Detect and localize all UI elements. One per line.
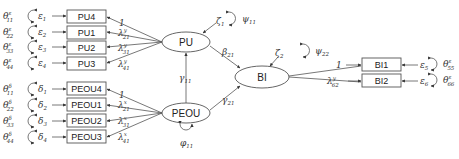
error-variance-arc	[28, 131, 34, 143]
disturbance-arrow	[203, 23, 216, 33]
variance-label: φ11	[180, 138, 193, 149]
indicator-label: PU3	[78, 59, 96, 69]
pu-indicator-row: θε44 ε4 PU3 λy41	[3, 57, 130, 71]
theta-label: θε22	[3, 26, 14, 39]
disturbance-label: ζ2	[275, 48, 284, 59]
path-label-beta21: β21	[221, 47, 234, 58]
error-variance-arc	[431, 74, 437, 86]
peou-indicator-row: θδ44 δ4 PEOU3 λx41	[3, 130, 130, 144]
theta-label: θε33	[3, 41, 14, 54]
theta-label: θε44	[3, 57, 14, 70]
variance-arc	[180, 124, 192, 130]
error-variance-arc	[28, 10, 34, 22]
indicator-label: BI1	[375, 60, 389, 70]
loading-label: λy31	[117, 42, 130, 55]
bi-indicator-group: 1 BI1 ε5 θε55 λy62 BI2 ε6 θε66	[289, 58, 455, 88]
error-variance-arc	[28, 115, 34, 127]
structural-paths: γ11 β21 γ21	[179, 46, 240, 110]
theta-label: θδ44	[3, 131, 14, 144]
pu-indicator-row: θε33 ε3 PU2 λy31	[3, 41, 130, 55]
disturbance-variance-arc	[229, 12, 236, 25]
indicator-label: PEOU4	[71, 84, 102, 94]
latent-pu: PU ζ1 ψ11	[162, 12, 256, 52]
variance-label: ψ11	[242, 14, 256, 25]
indicator-label: PU2	[78, 43, 96, 53]
pu-indicator-row: θε11 ε1 PU4 1	[3, 10, 125, 28]
error-variance-arc	[28, 83, 34, 95]
error-variance-arc	[28, 26, 34, 38]
path-label-gamma21: γ21	[222, 95, 234, 106]
loading-label: λx41	[117, 131, 130, 144]
error-label: ε3	[38, 42, 47, 53]
bi-loading-line	[289, 66, 361, 76]
disturbance-label: ζ1	[216, 16, 224, 27]
loading-label: λx31	[117, 115, 130, 128]
bi-indicator-row: 1 BI1 ε5 θε55	[336, 58, 455, 71]
error-variance-arc	[431, 58, 437, 70]
peou-indicator-group: θδ11 δ1 PEOU4 1 θδ22 δ2 PEOU1 λx21 θδ33 …	[3, 82, 162, 144]
sem-diagram: θε11 ε1 PU4 1 θε22 ε2 PU1 λy21 θε33 ε3 P…	[0, 0, 459, 159]
indicator-label: PEOU1	[71, 100, 102, 110]
loading-label: λy62	[326, 75, 339, 88]
error-label: δ4	[38, 132, 47, 143]
indicator-label: PEOU2	[71, 116, 102, 126]
indicator-label: BI2	[375, 76, 389, 86]
error-label: δ3	[38, 116, 47, 127]
peou-indicator-row: θδ22 δ2 PEOU1 λx21	[3, 98, 130, 112]
error-label: δ2	[38, 100, 47, 111]
latent-bi: BI ζ2 ψ22	[235, 44, 330, 88]
loading-label: λy41	[117, 58, 130, 71]
theta-label: θδ22	[3, 99, 14, 112]
latent-label: PEOU	[172, 108, 200, 119]
peou-indicator-row: θδ11 δ1 PEOU4 1	[3, 82, 125, 100]
indicator-label: PU4	[78, 12, 96, 22]
error-label: ε2	[38, 27, 47, 38]
error-variance-arc	[28, 41, 34, 53]
error-label: ε5	[420, 60, 429, 71]
latent-peou: PEOU φ11	[162, 103, 210, 149]
theta-label: θε66	[443, 74, 455, 87]
disturbance-variance-arc	[303, 44, 310, 57]
error-label: δ1	[38, 84, 47, 95]
latent-label: PU	[179, 37, 193, 48]
path-label-gamma11: γ11	[179, 73, 191, 84]
error-variance-arc	[28, 99, 34, 111]
theta-label: θε55	[443, 58, 455, 71]
loading-label: λy21	[117, 27, 130, 40]
pu-indicator-group: θε11 ε1 PU4 1 θε22 ε2 PU1 λy21 θε33 ε3 P…	[3, 10, 162, 71]
error-label: ε4	[38, 58, 47, 69]
indicator-label: PU1	[78, 28, 96, 38]
peou-loading-lines	[107, 89, 162, 137]
pu-loading-lines	[107, 17, 162, 63]
error-label: ε1	[38, 11, 46, 22]
theta-label: θδ33	[3, 115, 14, 128]
disturbance-arrow	[270, 57, 278, 66]
loading-label: 1	[336, 60, 342, 70]
loading-label: λx21	[117, 99, 130, 112]
indicator-label: PEOU3	[71, 132, 102, 142]
latent-label: BI	[257, 72, 266, 83]
error-label: ε6	[420, 76, 429, 87]
variance-label: ψ22	[315, 46, 330, 57]
theta-label: θε11	[3, 10, 13, 23]
theta-label: θδ11	[3, 83, 14, 96]
peou-indicator-row: θδ33 δ3 PEOU2 λx31	[3, 114, 130, 128]
error-variance-arc	[28, 57, 34, 69]
